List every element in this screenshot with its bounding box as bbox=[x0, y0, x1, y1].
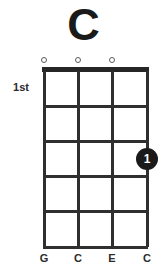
chord-diagram-card: C 1st GCEC 1 bbox=[0, 0, 166, 275]
open-string-circle-icon bbox=[109, 57, 115, 63]
open-string-circle-icon bbox=[41, 57, 47, 63]
fret-line-5 bbox=[43, 246, 148, 249]
fret-position-label: 1st bbox=[2, 80, 40, 94]
string-line-3 bbox=[111, 71, 114, 247]
fret-line-4 bbox=[43, 210, 148, 213]
string-name-label-4: C bbox=[137, 251, 157, 265]
string-line-1 bbox=[43, 71, 46, 247]
nut-bar bbox=[42, 67, 149, 72]
fretboard-grid bbox=[44, 71, 147, 247]
string-line-2 bbox=[77, 71, 80, 247]
string-name-label-3: E bbox=[102, 251, 122, 265]
fret-line-2 bbox=[43, 140, 148, 143]
string-name-row: GCEC bbox=[0, 251, 166, 267]
fret-line-1 bbox=[43, 105, 148, 108]
fret-line-3 bbox=[43, 175, 148, 178]
string-name-label-1: G bbox=[34, 251, 54, 265]
chord-name-title: C bbox=[0, 2, 166, 48]
open-string-marker-row bbox=[0, 55, 166, 67]
string-name-label-2: C bbox=[68, 251, 88, 265]
finger-dot-1: 1 bbox=[136, 148, 158, 170]
open-string-circle-icon bbox=[75, 57, 81, 63]
